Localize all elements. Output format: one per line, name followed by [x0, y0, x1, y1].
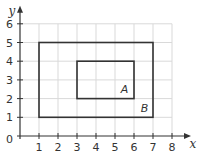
y-axis-label: y — [8, 4, 16, 18]
axes — [17, 6, 191, 139]
x-tick-label: 5 — [112, 141, 119, 154]
tick-labels: AB123456781234560xy — [6, 4, 197, 154]
y-tick-label: 4 — [6, 55, 13, 68]
x-tick-label: 3 — [74, 141, 81, 154]
rectangle-label-a: A — [120, 83, 129, 96]
origin-label: 0 — [6, 133, 13, 146]
x-tick-label: 4 — [93, 141, 100, 154]
x-tick-label: 7 — [150, 141, 157, 154]
grid-lines — [20, 24, 172, 136]
x-axis-label: x — [190, 137, 197, 151]
y-tick-label: 5 — [6, 37, 13, 50]
x-tick-label: 8 — [169, 141, 176, 154]
y-tick-label: 6 — [6, 18, 13, 31]
x-tick-label: 2 — [55, 141, 62, 154]
y-axis-arrow-icon — [17, 6, 23, 13]
coordinate-plane: AB123456781234560xy — [0, 0, 198, 156]
y-tick-label: 2 — [6, 93, 13, 106]
x-tick-label: 6 — [131, 141, 138, 154]
y-tick-label: 1 — [6, 111, 13, 124]
rectangle-label-b: B — [141, 102, 149, 115]
y-tick-label: 3 — [6, 74, 13, 87]
x-tick-label: 1 — [36, 141, 43, 154]
